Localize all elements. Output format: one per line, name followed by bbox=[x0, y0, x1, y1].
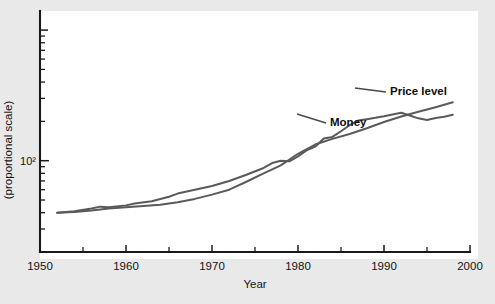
x-tick-label-1990: 1990 bbox=[371, 260, 397, 272]
plot-area-background bbox=[40, 11, 478, 259]
x-tick-label-1950: 1950 bbox=[27, 260, 53, 272]
annotation-label-money: Money bbox=[330, 116, 367, 128]
x-tick-label-1960: 1960 bbox=[113, 260, 139, 272]
x-tick-label-2000: 2000 bbox=[457, 260, 483, 272]
y-axis-title: (proportional scale) bbox=[2, 101, 14, 200]
annotation-label-price-level: Price level bbox=[390, 85, 447, 97]
x-tick-label-1970: 1970 bbox=[199, 260, 225, 272]
y-axis-tick-label-100: 10² bbox=[20, 155, 36, 167]
x-tick-label-1980: 1980 bbox=[285, 260, 311, 272]
x-axis-title: Year bbox=[243, 278, 266, 290]
chart-figure: 195019601970198019902000 10² Year (propo… bbox=[0, 0, 495, 304]
